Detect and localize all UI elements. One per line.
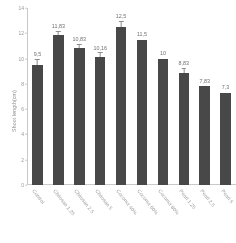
y-tick-label: 14 xyxy=(18,5,24,11)
bar xyxy=(137,40,148,185)
bar xyxy=(32,65,43,185)
plot-area: 14121086420 9,511,8310,8310,1612,511,510… xyxy=(27,8,236,185)
bar xyxy=(116,27,127,185)
bar-slot: 10,16 xyxy=(90,8,111,185)
bar xyxy=(74,48,85,185)
x-label-slot: Chitosan 2.5 xyxy=(69,186,90,243)
error-bar-cap xyxy=(98,52,103,53)
bar-value-label: 10 xyxy=(160,50,166,56)
bar xyxy=(220,93,231,185)
y-tick-label: 4 xyxy=(21,131,24,137)
bar-value-label: 10,16 xyxy=(93,45,107,51)
bar-slot: 10,83 xyxy=(69,8,90,185)
x-label-slot: Chitosan 5 xyxy=(90,186,111,243)
bar-slot: 7,83 xyxy=(194,8,215,185)
x-label-slot: Coconut 60% xyxy=(132,186,153,243)
bar xyxy=(95,57,106,185)
bar-value-label: 9,5 xyxy=(34,51,42,57)
x-label-slot: Chitosan 1.25 xyxy=(48,186,69,243)
bar-slot: 11,83 xyxy=(48,8,69,185)
x-label-slot: Pearl 5 xyxy=(215,186,236,243)
y-tick-label: 0 xyxy=(21,182,24,188)
bar-slot: 8,83 xyxy=(173,8,194,185)
error-bar-cap xyxy=(35,59,40,60)
x-tick-label: Control xyxy=(32,188,47,205)
x-label-slot: Control xyxy=(27,186,48,243)
x-tick-label: Pearl 5 xyxy=(220,188,235,204)
bar-value-label: 11,5 xyxy=(137,31,147,37)
bar-series: 9,511,8310,8310,1612,511,5108,837,837,3 xyxy=(27,8,236,185)
bar xyxy=(158,59,169,185)
bar-slot: 9,5 xyxy=(27,8,48,185)
y-tick-label: 6 xyxy=(21,106,24,112)
error-bar-cap xyxy=(56,31,61,32)
error-bar-cap xyxy=(182,68,187,69)
x-label-slot: Pearl 2.5 xyxy=(194,186,215,243)
x-label-slot: Coconut 40% xyxy=(111,186,132,243)
bar-value-label: 8,83 xyxy=(179,60,190,66)
bar-slot: 11,5 xyxy=(132,8,153,185)
bar-value-label: 7,83 xyxy=(199,78,210,84)
bar-value-label: 12,5 xyxy=(116,13,127,19)
error-bar-cap xyxy=(119,21,124,22)
x-label-slot: Pearl 1.25 xyxy=(173,186,194,243)
x-axis-labels: ControlChitosan 1.25Chitosan 2.5Chitosan… xyxy=(27,186,236,243)
bar xyxy=(179,73,190,185)
y-tick-label: 10 xyxy=(18,56,24,62)
bar xyxy=(53,35,64,185)
y-tick-label: 12 xyxy=(18,30,24,36)
bar-value-label: 7,3 xyxy=(222,84,230,90)
x-tick-label: Pearl 2.5 xyxy=(199,188,216,208)
bar-chart: Shoot length(cm) 14121086420 9,511,8310,… xyxy=(0,0,236,243)
bar xyxy=(199,86,210,185)
bar-slot: 12,5 xyxy=(111,8,132,185)
y-axis-title: Shoot length(cm) xyxy=(11,56,17,166)
error-bar-cap xyxy=(77,44,82,45)
y-tick-label: 2 xyxy=(21,157,24,163)
bar-slot: 7,3 xyxy=(215,8,236,185)
bar-value-label: 11,83 xyxy=(52,23,65,29)
x-label-slot: Coconut 80% xyxy=(152,186,173,243)
bar-slot: 10 xyxy=(152,8,173,185)
bar-value-label: 10,83 xyxy=(73,36,87,42)
y-tick-label: 8 xyxy=(21,81,24,87)
